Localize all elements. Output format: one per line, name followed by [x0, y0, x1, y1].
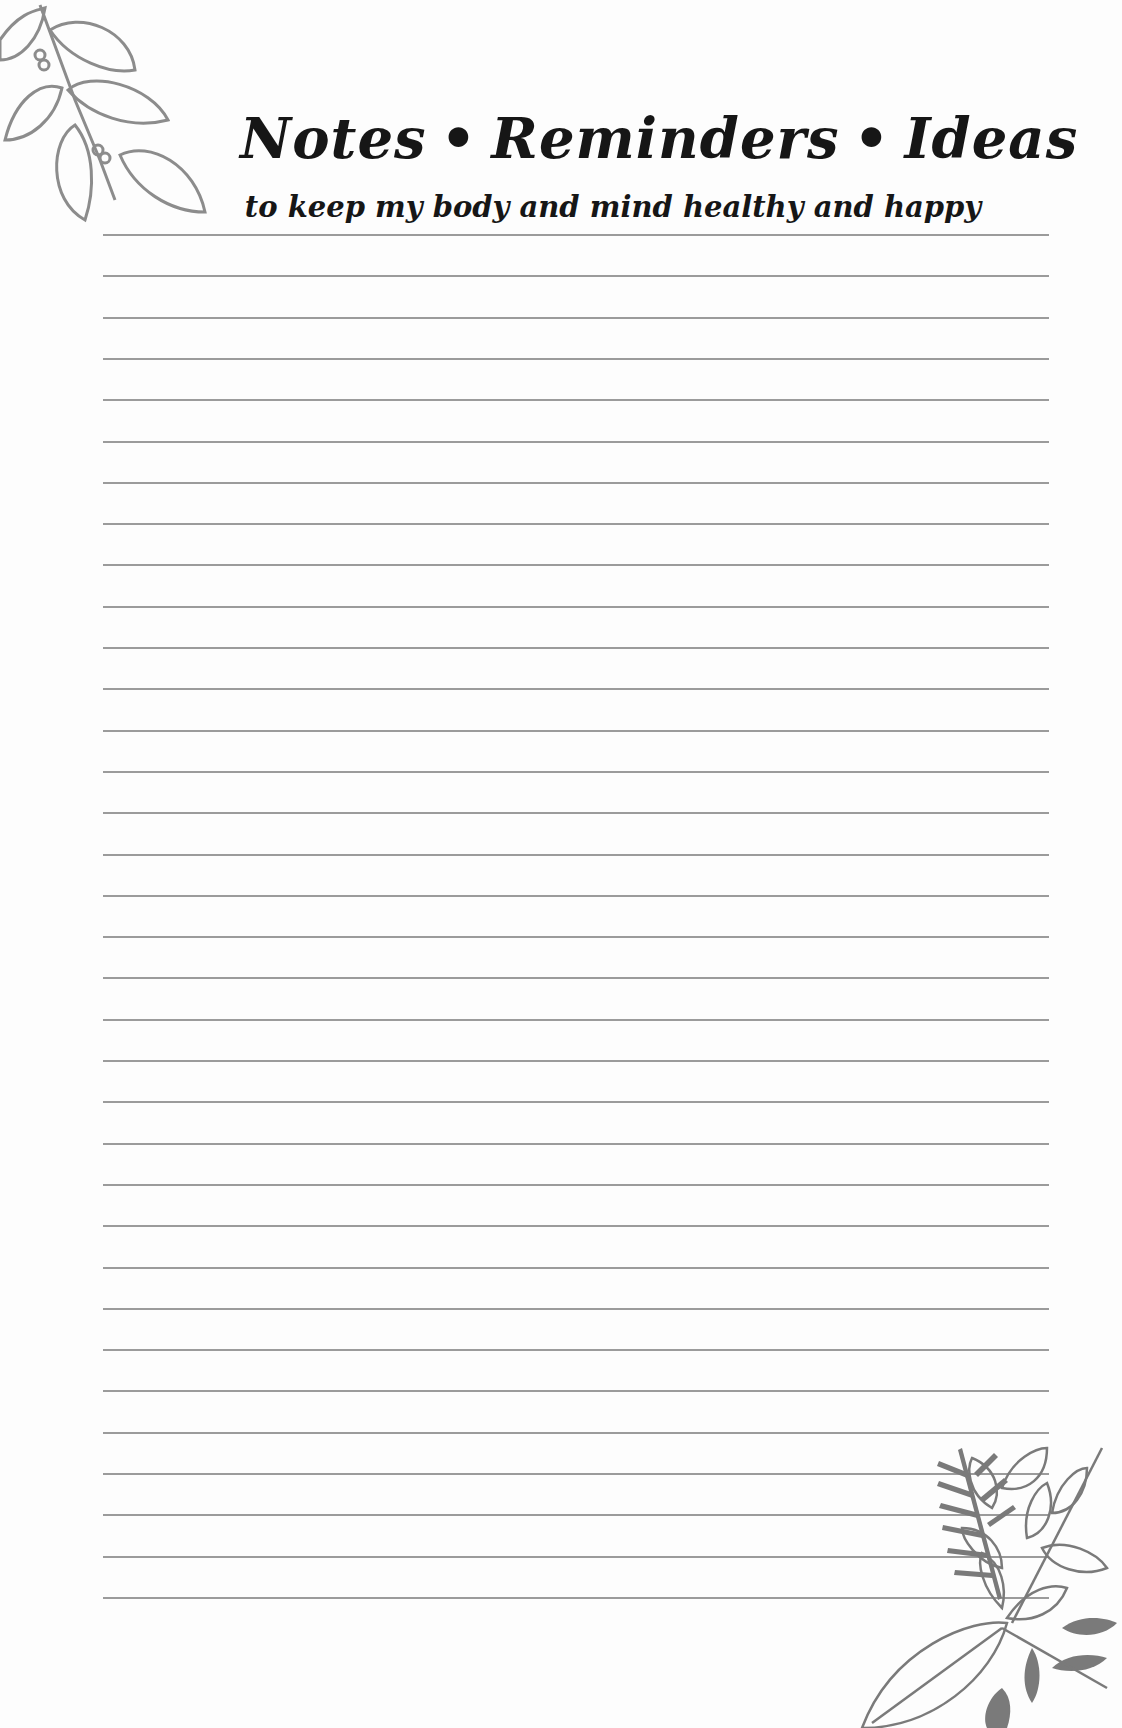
ruled-line	[103, 688, 1049, 690]
ruled-line	[103, 1390, 1049, 1392]
ruled-line	[103, 1184, 1049, 1186]
ruled-line	[103, 977, 1049, 979]
ruled-line	[103, 1267, 1049, 1269]
page-title: Notes•Reminders•Ideas	[240, 105, 960, 171]
ruled-line	[103, 1019, 1049, 1021]
ruled-line	[103, 730, 1049, 732]
ruled-line	[103, 564, 1049, 566]
ruled-line	[103, 936, 1049, 938]
title-separator: •	[854, 105, 891, 171]
ruled-line	[103, 812, 1049, 814]
ruled-line	[103, 1060, 1049, 1062]
ruled-line	[103, 399, 1049, 401]
ruled-line	[103, 441, 1049, 443]
notes-page: Notes•Reminders•Ideas to keep my body an…	[0, 0, 1122, 1728]
ruled-line	[103, 523, 1049, 525]
botanical-cluster-icon	[852, 1428, 1122, 1728]
page-subtitle: to keep my body and mind healthy and hap…	[228, 190, 998, 224]
ruled-line	[103, 1308, 1049, 1310]
title-separator: •	[441, 105, 478, 171]
ruled-line	[103, 1349, 1049, 1351]
ruled-line	[103, 1101, 1049, 1103]
ruled-line	[103, 358, 1049, 360]
title-reminders: Reminders	[491, 105, 839, 171]
ruled-line	[103, 234, 1049, 236]
title-notes: Notes	[240, 105, 427, 171]
ruled-line	[103, 606, 1049, 608]
title-ideas: Ideas	[904, 105, 1078, 171]
leaf-sprig-icon	[0, 0, 230, 230]
ruled-line	[103, 1143, 1049, 1145]
ruled-line	[103, 482, 1049, 484]
ruled-line	[103, 895, 1049, 897]
ruled-line	[103, 1225, 1049, 1227]
ruled-line	[103, 854, 1049, 856]
ruled-line	[103, 317, 1049, 319]
ruled-line	[103, 275, 1049, 277]
ruled-line	[103, 771, 1049, 773]
ruled-line	[103, 647, 1049, 649]
